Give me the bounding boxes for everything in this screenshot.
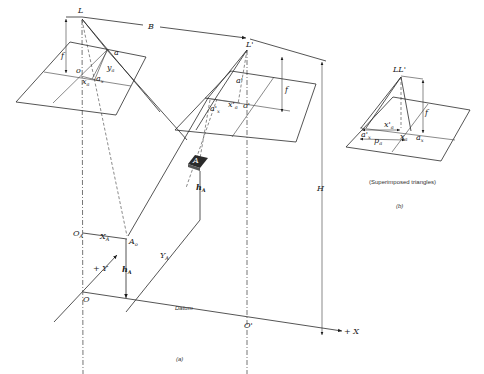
left-x-coord-label: xa [82, 77, 90, 87]
right-x-coord-label: x'a [228, 100, 238, 110]
left-station-label: L [77, 6, 83, 15]
panel-b-station-label: LL' [392, 65, 406, 74]
left-photo-plane: f o a ya xa ax [16, 19, 146, 115]
panel-b-ax-prime-label: a'x [361, 130, 371, 140]
panel-b-caption: (b) [396, 203, 403, 209]
right-focal-label: f [284, 85, 290, 94]
left-exposure-station: L [77, 6, 187, 374]
left-y-coord-label: ya [106, 63, 115, 73]
ground-origin-label: OA [73, 229, 84, 239]
Y-coord-label: YA [160, 251, 169, 261]
origin-prime-label: O' [244, 321, 253, 330]
plus-y-label: + Y [93, 264, 108, 273]
origin-label: O [83, 295, 90, 304]
panel-b-focal-label: f [424, 108, 430, 117]
right-principal-point-label: o' [243, 101, 250, 110]
air-base-label: B [147, 22, 154, 31]
ground-elevation-label: hA [122, 264, 132, 275]
ground-coordinates: OA XA Ao hA + Y Datum O O' + X [54, 229, 359, 336]
panel-b-parallax-label: pa [374, 136, 382, 146]
flying-height-label: H [316, 184, 325, 193]
elevation-label: hA [196, 182, 206, 193]
left-principal-point-label: o [76, 66, 81, 75]
left-ax-label: ax [96, 74, 104, 84]
panel-b-ax-label: ax [416, 133, 424, 143]
panel-b-title: (Superimposed triangles) [369, 179, 436, 185]
panel-a: B f o a ya xa ax L [16, 6, 359, 374]
ground-point-label: Ao [128, 237, 138, 247]
superimposed-photo-plane [346, 97, 470, 161]
panel-a-caption: (a) [176, 356, 183, 362]
panel-b-x-label: xa [400, 132, 408, 142]
object-point-a: A hA YA [126, 155, 208, 312]
flying-height-dimension: H [316, 62, 325, 335]
right-exposure-station: L' [128, 40, 254, 374]
datum-label: Datum [175, 305, 193, 311]
left-image-point-label: a [114, 48, 119, 57]
panel-b: f LL' x'a pa a'x xa ax (Superimposed tri… [346, 65, 470, 209]
stereo-parallax-diagram: B f o a ya xa ax L [0, 0, 484, 374]
panel-b-x-prime-label: x'a [384, 120, 394, 130]
X-coord-label: XA [99, 232, 110, 242]
left-focal-label: f [60, 51, 66, 60]
plus-x-label: + X [344, 327, 359, 336]
svg-text:A: A [192, 156, 199, 165]
right-station-label: L' [245, 40, 254, 49]
